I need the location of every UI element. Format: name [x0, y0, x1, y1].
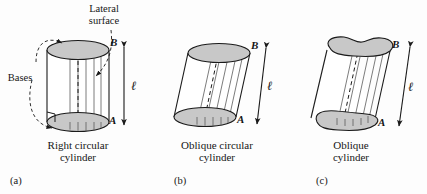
- panel-a-caption: Right circular cylinder: [13, 139, 143, 164]
- panel-c-id: (c): [316, 175, 328, 187]
- panel-c-height-label: ℓ: [408, 80, 413, 94]
- panel-c-caption-line-1: Oblique: [296, 139, 406, 151]
- panel-b-top-point-label: B: [251, 39, 258, 51]
- lateral-surface-line-1: Lateral: [73, 3, 135, 15]
- panel-b-height-arrow: [257, 48, 266, 124]
- panel-a-bottom-point-label: A: [109, 114, 116, 126]
- cylinder-types-figure: Lateral surface Bases B A ℓ Right circul…: [0, 0, 427, 194]
- panel-c-top-base: [328, 37, 393, 57]
- panel-b-drawing: [174, 44, 266, 127]
- panel-a-id: (a): [10, 175, 22, 187]
- panel-a-height-label: ℓ: [131, 79, 136, 93]
- panel-a-top-point-label: B: [110, 36, 117, 48]
- panel-c-caption: Oblique cylinder: [296, 139, 406, 164]
- figure-drawing: [0, 0, 427, 194]
- panel-c-top-point-label: B: [392, 38, 399, 50]
- lateral-surface-annotation: Lateral surface: [73, 3, 135, 27]
- panel-b-caption: Oblique circular cylinder: [152, 139, 282, 164]
- panel-b-height-label: ℓ: [267, 79, 272, 93]
- panel-c-drawing: [311, 37, 410, 130]
- bases-annotation: Bases: [2, 72, 38, 84]
- panel-b-top-base: [188, 44, 250, 63]
- panel-c-caption-line-2: cylinder: [296, 151, 406, 163]
- panel-c-bottom-point-label: A: [378, 116, 385, 128]
- panel-b-id: (b): [174, 175, 186, 187]
- panel-b-caption-line-2: cylinder: [152, 151, 282, 163]
- panel-b-caption-line-1: Oblique circular: [152, 139, 282, 151]
- panel-c-right-edge: [375, 51, 390, 119]
- panel-a-caption-line-2: cylinder: [13, 151, 143, 163]
- panel-a-caption-line-1: Right circular: [13, 139, 143, 151]
- lateral-surface-line-2: surface: [73, 15, 135, 27]
- panel-a-top-base: [47, 41, 109, 60]
- panel-b-bottom-point-label: A: [237, 113, 244, 125]
